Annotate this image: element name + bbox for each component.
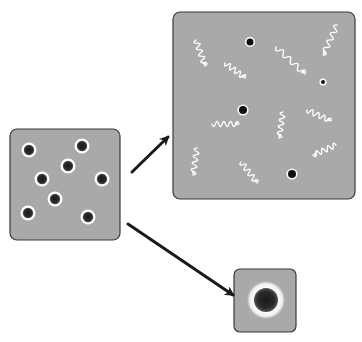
particle	[35, 172, 50, 187]
merged-particle	[247, 281, 285, 319]
arrow-to-radiation-icon	[132, 137, 168, 172]
residual-particle	[319, 78, 326, 85]
boxes-layer	[10, 12, 355, 332]
particle	[95, 172, 110, 187]
particle	[81, 210, 96, 225]
particle	[61, 159, 76, 174]
residual-particle	[245, 37, 255, 47]
particle	[48, 192, 63, 207]
particle	[22, 143, 37, 158]
particle	[21, 206, 36, 221]
particle-diagram	[0, 0, 362, 342]
residual-particle	[286, 168, 297, 179]
particle	[75, 139, 90, 154]
diagram-canvas	[0, 0, 362, 342]
arrow-to-merged-icon	[128, 224, 233, 295]
residual-particle	[237, 104, 248, 115]
